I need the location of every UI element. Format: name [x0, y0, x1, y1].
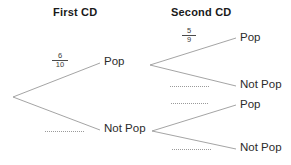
probability-tree-diagram: First CD Second CD 6 10 5 9 Pop Not Pop …: [0, 0, 291, 165]
node-label-second-notpop-notpop: Not Pop: [240, 141, 282, 153]
fraction-denominator: 9: [182, 35, 196, 44]
branch-root-to-notpop: [13, 97, 100, 130]
branch-pop-to-notpop: [150, 65, 236, 86]
probability-label-second-pop-pop: 5 9: [182, 27, 196, 44]
probability-label-first-pop: 6 10: [52, 52, 68, 69]
fraction-numerator: 6: [52, 52, 68, 60]
node-label-second-pop-notpop: Not Pop: [240, 78, 282, 90]
branch-notpop-to-notpop: [152, 131, 236, 149]
node-label-second-pop-pop: Pop: [240, 31, 260, 43]
probability-placeholder-first-notpop: [45, 131, 84, 133]
node-label-first-pop: Pop: [104, 55, 124, 67]
node-label-first-notpop: Not Pop: [104, 122, 146, 134]
fraction-numerator: 5: [182, 27, 196, 35]
node-label-second-notpop-pop: Pop: [240, 98, 260, 110]
probability-placeholder-second-notpop-pop: [171, 103, 208, 105]
column-header-second-cd: Second CD: [171, 6, 231, 18]
probability-placeholder-second-pop-notpop: [170, 86, 209, 88]
column-header-first-cd: First CD: [53, 6, 97, 18]
probability-placeholder-second-notpop-notpop: [172, 149, 211, 151]
branch-notpop-to-pop: [152, 105, 236, 131]
fraction-denominator: 10: [52, 60, 68, 69]
